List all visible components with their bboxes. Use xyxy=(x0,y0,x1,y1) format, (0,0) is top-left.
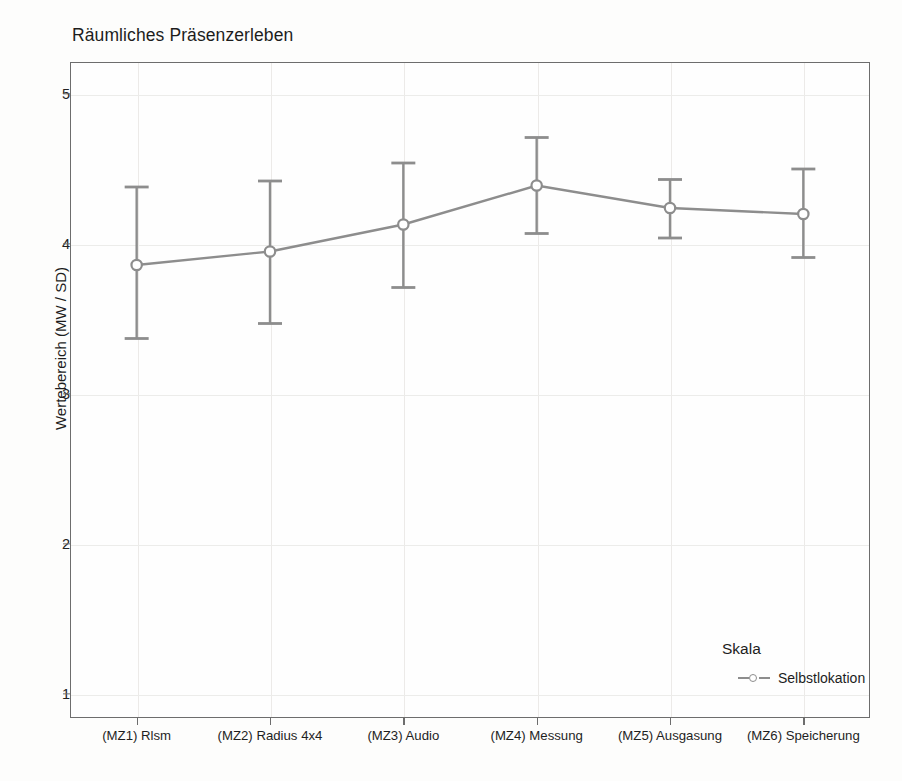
gridline-vertical xyxy=(671,63,672,717)
legend-title: Skala xyxy=(722,640,865,658)
y-axis-tick-mark xyxy=(63,693,71,694)
gridline-horizontal xyxy=(71,395,869,396)
gridline-vertical xyxy=(804,63,805,717)
gridline-vertical xyxy=(538,63,539,717)
legend-item-selbstlokation[interactable]: Selbstlokation xyxy=(738,670,865,686)
x-axis-tick-mark xyxy=(537,718,538,725)
chart-page: Räumliches Präsenzerleben Wertebereich (… xyxy=(0,0,902,781)
x-axis-tick-mark xyxy=(803,718,804,725)
x-axis-tick-mark xyxy=(670,718,671,725)
x-axis-tick-label: (MZ1) Rlsm xyxy=(102,728,171,743)
y-axis-tick-mark xyxy=(63,93,71,94)
y-axis-tick-mark xyxy=(63,543,71,544)
gridline-vertical xyxy=(271,63,272,717)
gridline-horizontal xyxy=(71,545,869,546)
y-axis-tick-mark xyxy=(63,243,71,244)
x-axis-tick-label: (MZ6) Speicherung xyxy=(747,728,860,743)
x-axis-tick-mark xyxy=(137,718,138,725)
x-axis-tick-label: (MZ3) Audio xyxy=(367,728,439,743)
gridline-vertical xyxy=(404,63,405,717)
legend-marker-icon xyxy=(738,672,770,684)
gridline-vertical xyxy=(138,63,139,717)
x-axis-tick-label: (MZ4) Messung xyxy=(490,728,582,743)
y-axis-title: Wertebereich (MW / SD) xyxy=(52,229,69,469)
x-axis-tick-mark xyxy=(403,718,404,725)
x-axis-tick-mark xyxy=(270,718,271,725)
page-title: Räumliches Präsenzerleben xyxy=(72,25,293,46)
x-axis-tick-label: (MZ2) Radius 4x4 xyxy=(218,728,323,743)
gridline-horizontal xyxy=(71,95,869,96)
legend-item-label: Selbstlokation xyxy=(778,670,865,686)
y-axis-tick-mark xyxy=(63,393,71,394)
gridline-horizontal xyxy=(71,695,869,696)
gridline-horizontal xyxy=(71,245,869,246)
x-axis-tick-label: (MZ5) Ausgasung xyxy=(618,728,722,743)
legend: Skala Selbstlokation xyxy=(722,640,865,686)
plot-area xyxy=(70,62,870,718)
